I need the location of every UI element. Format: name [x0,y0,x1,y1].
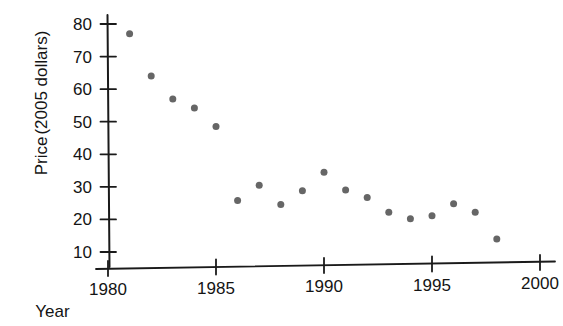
data-point-group [126,30,500,242]
data-point [364,194,371,201]
data-point [385,209,392,216]
data-point [299,187,306,194]
y-axis-tick-label: 70 [58,49,92,66]
data-point [450,200,457,207]
x-axis-tick-label: 1995 [400,277,464,294]
y-axis-tick-label: 80 [58,16,92,33]
data-point [342,187,349,194]
data-point [126,30,133,37]
data-point [277,201,284,208]
y-axis-tick-label: 50 [58,114,92,131]
data-point [321,169,328,176]
data-point [234,197,241,204]
data-point [256,182,263,189]
y-axis-tick-label: 20 [58,211,92,228]
axis-lines [96,15,555,269]
data-point [493,235,500,242]
data-point [169,95,176,102]
data-point [148,73,155,80]
y-axis-tick-label: 30 [58,179,92,196]
x-axis-tick-label: 2000 [508,275,563,292]
y-axis-tick-label: 40 [58,146,92,163]
data-point [429,212,436,219]
y-axis-line [108,15,110,267]
x-axis-tick-label: 1990 [292,278,356,295]
data-point [191,105,198,112]
x-axis-tick-label: 1985 [184,280,248,297]
data-point [472,209,479,216]
y-axis-tick-label: 60 [58,81,92,98]
data-point [407,215,414,222]
x-axis-tick-label: 1980 [76,281,140,298]
y-axis-tick-label: 10 [58,244,92,261]
x-axis-line [96,262,555,270]
data-point [213,123,220,130]
x-axis-ticks [108,255,540,276]
